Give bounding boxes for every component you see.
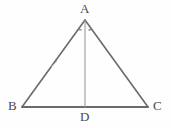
geometry-figure: A B C D <box>0 0 171 128</box>
segment-ab <box>22 20 85 107</box>
vertex-label-b: B <box>8 99 17 112</box>
vertex-label-a: A <box>80 2 89 15</box>
segment-ac <box>85 20 148 107</box>
vertex-label-d: D <box>80 110 89 123</box>
vertex-label-c: C <box>153 99 162 112</box>
